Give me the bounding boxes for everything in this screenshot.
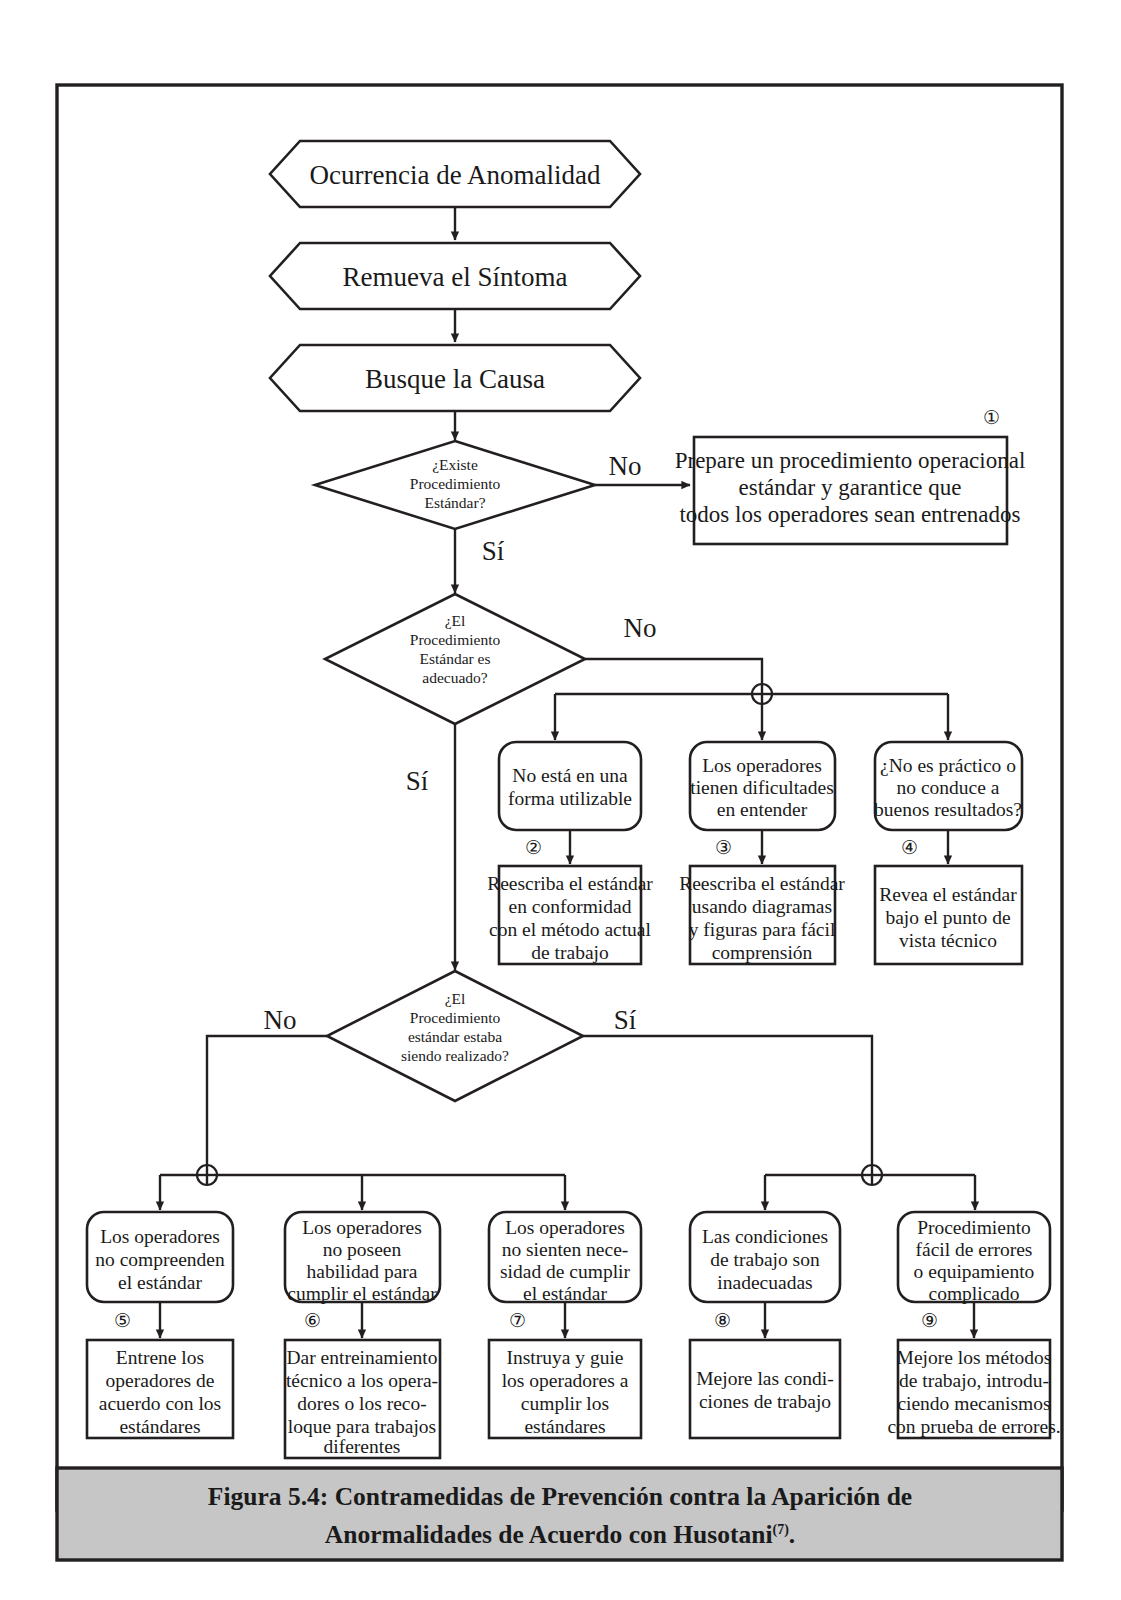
decision-line: siendo realizado? (401, 1047, 509, 1064)
figure-caption: Figura 5.4: Contramedidas de Prevención … (57, 1468, 1062, 1560)
cause-line: habilidad para (307, 1261, 418, 1282)
cause-line: el estándar (523, 1283, 607, 1304)
branch-label-si: Sí (482, 536, 505, 566)
node-label: Remueva el Síntoma (343, 262, 568, 292)
cause-no-practico: ¿No es práctico o no conduce a buenos re… (874, 742, 1022, 830)
step-number-8: ⑧ (714, 1310, 731, 1331)
cause-no-sienten-necesidad: Los operadores no sienten nece- sidad de… (489, 1212, 641, 1304)
action-line: y figuras para fácil (689, 919, 836, 940)
action-line: ciones de trabajo (699, 1391, 831, 1412)
cause-line: no conduce a (897, 777, 1000, 798)
branch-label-no: No (609, 451, 642, 481)
action-line: de trabajo (531, 942, 608, 963)
decision-line: Estándar? (424, 494, 485, 511)
action-line: Entrene los (116, 1347, 204, 1368)
action-line: todos los operadores sean entrenados (679, 502, 1020, 527)
decision-line: ¿Existe (432, 456, 478, 473)
decision-line: ¿El (445, 612, 466, 629)
cause-line: No está en una (512, 765, 628, 786)
action-line: vista técnico (899, 930, 997, 951)
decision-line: Estándar es (419, 650, 490, 667)
action-line: Dar entreinamiento (286, 1347, 437, 1368)
cause-line: Los operadores (505, 1217, 625, 1238)
cause-line: Procedimiento (917, 1217, 1031, 1238)
caption-line-2: Anormalidades de Acuerdo con Husotani(7)… (325, 1520, 795, 1549)
action-line: Revea el estándar (879, 884, 1017, 905)
cause-line: Los operadores (100, 1226, 220, 1247)
action-line: de trabajo, introdu- (899, 1370, 1049, 1391)
node-busque-la-causa: Busque la Causa (270, 345, 640, 411)
cause-line: en entender (717, 799, 808, 820)
step-number-7: ⑦ (509, 1310, 526, 1331)
cause-condiciones-inadecuadas: Las condiciones de trabajo son inadecuad… (690, 1212, 840, 1302)
caption-line-1: Figura 5.4: Contramedidas de Prevención … (208, 1482, 912, 1511)
cause-line: forma utilizable (508, 788, 632, 809)
action-line: Mejore las condi- (696, 1368, 834, 1389)
figure-container: Ocurrencia de Anomalidad Remueva el Sínt… (0, 0, 1121, 1600)
cause-line: fácil de errores (916, 1239, 1033, 1260)
action-line: con el método actual (489, 919, 651, 940)
cause-operadores-dificultades: Los operadores tienen dificultades en en… (690, 742, 835, 830)
cause-line: ¿No es práctico o (880, 755, 1016, 776)
action-line: estándar y garantice que (739, 475, 962, 500)
cause-line: inadecuadas (717, 1272, 812, 1293)
action-line: Mejore los métodos (897, 1347, 1052, 1368)
cause-procedimiento-facil-errores: Procedimiento fácil de errores o equipam… (898, 1212, 1050, 1304)
action-reescriba-conformidad: Reescriba el estándar en conformidad con… (487, 866, 653, 964)
cause-line: sidad de cumplir (500, 1261, 630, 1282)
cause-line: tienen dificultades (690, 777, 834, 798)
cause-line: Los operadores (302, 1217, 422, 1238)
cause-line: el estándar (118, 1272, 202, 1293)
action-line: estándares (119, 1416, 200, 1437)
action-line: Prepare un procedimiento operacional (675, 448, 1026, 473)
caption-period: . (789, 1520, 795, 1549)
action-line: operadores de (106, 1370, 215, 1391)
decision-line: Procedimiento (410, 1009, 501, 1026)
decision-line: estándar estaba (408, 1028, 502, 1045)
junction-circled-plus (862, 1165, 882, 1185)
branch-label-si: Sí (614, 1005, 637, 1035)
action-line: dores o los reco- (297, 1393, 426, 1414)
cause-line: Las condiciones (702, 1226, 828, 1247)
decision-existe-procedimiento-estandar: ¿Existe Procedimiento Estándar? (315, 441, 595, 529)
action-line: cumplir los (521, 1393, 609, 1414)
action-instruya-guie: Instruya y guie los operadores a cumplir… (489, 1340, 641, 1438)
action-line: Reescriba el estándar (679, 873, 845, 894)
action-prepare-procedimiento: Prepare un procedimiento operacional est… (675, 437, 1026, 544)
cause-line: Los operadores (702, 755, 822, 776)
action-line: en conformidad (509, 896, 632, 917)
cause-no-esta-forma-utilizable: No está en una forma utilizable (499, 742, 641, 830)
step-number-9: ⑨ (921, 1310, 938, 1331)
step-number-5: ⑤ (114, 1310, 131, 1331)
step-number-4: ④ (901, 837, 918, 858)
step-number-6: ⑥ (304, 1310, 321, 1331)
decision-procedimiento-adecuado: ¿El Procedimiento Estándar es adecuado? (325, 594, 585, 724)
junction-circled-plus (197, 1165, 217, 1185)
branch-label-si: Sí (406, 766, 429, 796)
action-line: diferentes (324, 1436, 401, 1457)
cause-line: o equipamiento (914, 1261, 1035, 1282)
cause-line: de trabajo son (710, 1249, 820, 1270)
connector-no (585, 659, 762, 694)
node-ocurrencia-de-anomalidad: Ocurrencia de Anomalidad (270, 141, 640, 207)
action-mejore-condiciones: Mejore las condi- ciones de trabajo (690, 1340, 840, 1438)
step-number-3: ③ (715, 837, 732, 858)
action-line: usando diagramas (692, 896, 832, 917)
action-line: Reescriba el estándar (487, 873, 653, 894)
action-reescriba-diagramas: Reescriba el estándar usando diagramas y… (679, 866, 845, 964)
action-mejore-metodos-trabajo: Mejore los métodos de trabajo, introdu- … (887, 1340, 1060, 1438)
connector-no (207, 1036, 327, 1175)
cause-line: complicado (929, 1283, 1020, 1304)
action-line: ciendo mecanismos (897, 1393, 1050, 1414)
junction-circled-plus (752, 684, 772, 704)
action-dar-entreinamiento-tecnico: Dar entreinamiento técnico a los opera- … (285, 1340, 440, 1458)
decision-line: Procedimiento (410, 631, 501, 648)
cause-line: buenos resultados? (874, 799, 1022, 820)
step-number-1: ① (983, 407, 1000, 428)
action-line: bajo el punto de (885, 907, 1010, 928)
action-line: loque para trabajos (288, 1416, 436, 1437)
cause-line: no sienten nece- (502, 1239, 629, 1260)
caption-superscript: (7) (773, 1522, 790, 1538)
node-remueva-el-sintoma: Remueva el Síntoma (270, 243, 640, 309)
decision-line: adecuado? (422, 669, 488, 686)
